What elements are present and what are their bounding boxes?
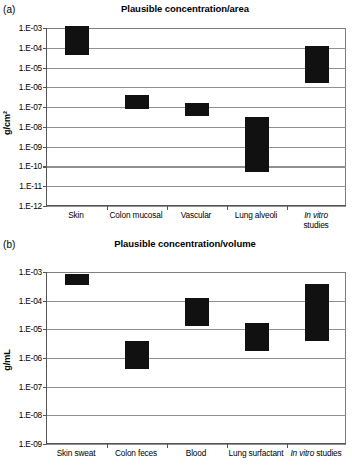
y-axis-tick [43, 444, 47, 445]
gridline [47, 48, 346, 49]
gridline [47, 444, 346, 445]
gridline [47, 358, 346, 359]
y-axis-tick [43, 358, 47, 359]
y-axis-tick [43, 87, 47, 88]
y-axis-tick-label: 1.E-07 [19, 102, 42, 112]
range-bar [305, 284, 329, 340]
y-axis-tick [43, 186, 47, 187]
y-axis-tick [43, 329, 47, 330]
y-axis-title-b: g/mL [2, 343, 12, 377]
y-axis-tick-label: 1.E-06 [19, 82, 42, 92]
plot-area-a: 1.E-031.E-041.E-051.E-061.E-071.E-081.E-… [46, 28, 346, 206]
y-axis-tick-label: 1.E-08 [19, 410, 42, 420]
y-axis-tick-label: 1.E-09 [19, 142, 42, 152]
range-bar [65, 274, 89, 285]
chart-title-b: Plausible concentration/volume [60, 238, 310, 249]
y-axis-tick-label: 1.E-05 [19, 63, 42, 73]
y-axis-tick-label: 1.E-03 [19, 267, 42, 277]
gridline [47, 186, 346, 187]
y-axis-tick-label: 1.E-07 [19, 382, 42, 392]
y-axis-tick-label: 1.E-04 [19, 43, 42, 53]
x-axis-category-label: In vitro studies [280, 448, 352, 458]
y-axis-tick [43, 415, 47, 416]
y-axis-tick [43, 28, 47, 29]
gridline [47, 147, 346, 148]
y-axis-tick [43, 107, 47, 108]
y-axis-tick-label: 1.E-09 [19, 439, 42, 449]
y-axis-title-a: g/cm² [2, 105, 12, 141]
gridline [47, 206, 346, 207]
y-axis-tick [43, 68, 47, 69]
gridline [47, 166, 346, 167]
plot-area-b: 1.E-031.E-041.E-051.E-061.E-071.E-081.E-… [46, 272, 346, 444]
chart-title-a: Plausible concentration/area [60, 3, 310, 14]
plot-border-top-a [47, 28, 346, 29]
range-bar [125, 95, 149, 109]
y-axis-tick-label: 1.E-10 [19, 161, 42, 171]
y-axis-tick [43, 166, 47, 167]
y-axis-tick [43, 48, 47, 49]
y-axis-tick [43, 387, 47, 388]
range-bar [305, 46, 329, 83]
y-axis-tick-label: 1.E-06 [19, 353, 42, 363]
range-bar [185, 298, 209, 326]
range-bar [65, 26, 89, 55]
range-bar [125, 341, 149, 368]
y-axis-tick-label: 1.E-12 [19, 201, 42, 211]
panel-label-b: (b) [3, 239, 16, 250]
y-axis-tick [43, 206, 47, 207]
gridline [47, 68, 346, 69]
gridline [47, 415, 346, 416]
y-axis-tick [43, 147, 47, 148]
gridline [47, 127, 346, 128]
panel-label-a: (a) [3, 4, 16, 15]
y-axis-tick [43, 272, 47, 273]
plot-border-right-a [345, 28, 346, 206]
range-bar [245, 117, 269, 171]
y-axis-tick-label: 1.E-08 [19, 122, 42, 132]
chart-panel-a: (a) Plausible concentration/area g/cm² 1… [0, 0, 352, 235]
y-axis-tick-label: 1.E-04 [19, 296, 42, 306]
gridline [47, 87, 346, 88]
y-axis-tick-label: 1.E-05 [19, 324, 42, 334]
y-axis-tick-label: 1.E-11 [19, 181, 42, 191]
x-axis-category-label: In vitrostudies [280, 210, 352, 230]
y-axis-tick [43, 127, 47, 128]
plot-border-top-b [47, 272, 346, 273]
y-axis-tick [43, 301, 47, 302]
range-bar [245, 323, 269, 351]
y-axis-tick-label: 1.E-03 [19, 23, 42, 33]
gridline [47, 329, 346, 330]
range-bar [185, 103, 209, 117]
gridline [47, 387, 346, 388]
